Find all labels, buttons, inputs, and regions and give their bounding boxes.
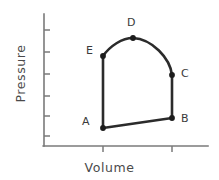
chart-canvas: [0, 0, 219, 180]
state-label-e: E: [86, 45, 93, 56]
state-point-b: [169, 115, 175, 121]
y-axis-label: Pressure: [13, 44, 28, 102]
cycle-path: [103, 38, 172, 128]
y-axis-label-wrapper: Pressure: [8, 0, 32, 146]
state-label-c: C: [181, 68, 189, 79]
state-label-d: D: [127, 17, 136, 28]
state-label-a: A: [82, 116, 90, 127]
state-label-b: B: [181, 113, 189, 124]
state-point-d: [130, 35, 136, 41]
state-point-e: [100, 53, 106, 59]
pressure-volume-chart: A B C D E Pressure Volume: [0, 0, 219, 180]
x-axis-label: Volume: [0, 160, 219, 175]
state-point-a: [100, 125, 106, 131]
state-point-c: [169, 72, 175, 78]
